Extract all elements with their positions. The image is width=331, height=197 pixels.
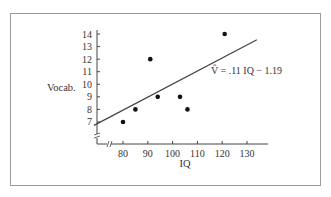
data-point bbox=[133, 107, 138, 112]
x-tick-label: 80 bbox=[118, 148, 128, 159]
y-tick-label: 14 bbox=[82, 29, 92, 40]
x-tick-label: 110 bbox=[190, 148, 205, 159]
data-point bbox=[121, 120, 126, 125]
y-tick-label: 8 bbox=[87, 104, 92, 115]
y-tick-label: 11 bbox=[82, 66, 92, 77]
regression-equation: V̂ = .11 IQ − 1.19 bbox=[211, 64, 282, 76]
y-tick-label: 10 bbox=[82, 79, 92, 90]
ticks: 78910111213148090100110120130 bbox=[82, 29, 255, 160]
y-axis-label: Vocab. bbox=[47, 82, 76, 93]
x-tick-label: 120 bbox=[215, 148, 230, 159]
x-tick-label: 130 bbox=[240, 148, 255, 159]
y-tick-label: 13 bbox=[82, 41, 92, 52]
data-point bbox=[222, 32, 227, 37]
x-tick-label: 100 bbox=[165, 148, 180, 159]
scatter-plot: 78910111213148090100110120130 Vocab. IQ … bbox=[0, 0, 331, 197]
regression-line bbox=[94, 40, 257, 126]
data-point bbox=[178, 95, 183, 100]
data-point bbox=[148, 57, 153, 62]
x-tick-label: 90 bbox=[143, 148, 153, 159]
data-point bbox=[155, 95, 160, 100]
data-point bbox=[185, 107, 190, 112]
y-tick-label: 7 bbox=[87, 116, 92, 127]
y-tick-label: 12 bbox=[82, 54, 92, 65]
data-points bbox=[121, 32, 227, 125]
y-tick-label: 9 bbox=[87, 91, 92, 102]
x-axis-label: IQ bbox=[179, 158, 190, 169]
